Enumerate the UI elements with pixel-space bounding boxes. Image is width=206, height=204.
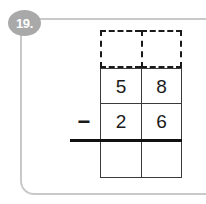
worksheet-problem-card: 19. − 5 8 2 6 <box>0 0 206 204</box>
regrouping-row <box>100 30 182 68</box>
problem-number-label: 19. <box>16 17 33 30</box>
minuend-digit-tens: 5 <box>100 68 141 104</box>
subtrahend-digit-tens: 2 <box>100 104 141 140</box>
problem-number-badge: 19. <box>8 10 41 36</box>
answer-separator-bar <box>70 139 182 142</box>
minuend-row: 5 8 <box>100 68 182 104</box>
minus-sign-icon: − <box>74 112 94 132</box>
answer-cell-tens[interactable] <box>100 141 141 178</box>
regroup-cell-ones[interactable] <box>141 30 182 68</box>
answer-row <box>100 141 182 178</box>
regroup-cell-tens[interactable] <box>100 30 141 68</box>
subtraction-grid: 5 8 2 6 <box>100 30 182 178</box>
answer-cell-ones[interactable] <box>141 141 182 178</box>
subtrahend-digit-ones: 6 <box>141 104 182 140</box>
subtrahend-row: 2 6 <box>100 104 182 140</box>
minuend-digit-ones: 8 <box>141 68 182 104</box>
